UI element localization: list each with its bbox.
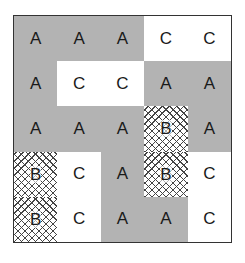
cell-label: A	[117, 164, 128, 184]
cell-label: C	[116, 74, 128, 94]
cell-label: B	[160, 120, 171, 137]
cell-label: A	[160, 209, 171, 229]
cell-label: B	[30, 166, 41, 183]
cell-label: C	[73, 74, 85, 94]
cell-label: A	[73, 29, 84, 49]
cell-r1-c2: A	[57, 16, 100, 61]
cell-r4-c2: C	[57, 152, 100, 197]
cell-label: C	[160, 29, 172, 49]
cell-r1-c1: A	[14, 16, 57, 61]
cell-r3-c1: A	[14, 106, 57, 151]
cell-r3-c3: A	[101, 106, 144, 151]
cell-label: A	[204, 74, 215, 94]
cell-r5-c5: C	[188, 197, 231, 242]
cell-r1-c3: A	[101, 16, 144, 61]
cell-label: A	[117, 119, 128, 139]
cell-r5-c4: A	[144, 197, 187, 242]
cell-r5-c3: A	[101, 197, 144, 242]
cell-r4-c1: B	[14, 152, 57, 197]
cell-label: A	[204, 119, 215, 139]
cell-label: A	[73, 119, 84, 139]
cell-label: A	[30, 119, 41, 139]
cell-label: A	[160, 74, 171, 94]
cell-r5-c2: C	[57, 197, 100, 242]
cell-r2-c1: A	[14, 61, 57, 106]
cell-r4-c4: B	[144, 152, 187, 197]
cell-label: C	[203, 29, 215, 49]
cell-r4-c3: A	[101, 152, 144, 197]
cell-r2-c4: A	[144, 61, 187, 106]
cell-r5-c1: B	[14, 197, 57, 242]
cell-r2-c2: C	[57, 61, 100, 106]
cell-label: C	[73, 209, 85, 229]
cell-label: C	[203, 209, 215, 229]
cell-label: B	[30, 211, 41, 228]
cell-r2-c3: C	[101, 61, 144, 106]
cell-r1-c5: C	[188, 16, 231, 61]
cell-label: B	[160, 166, 171, 183]
cell-r3-c5: A	[188, 106, 231, 151]
cell-label: A	[30, 29, 41, 49]
cell-label: A	[117, 209, 128, 229]
cell-r1-c4: C	[144, 16, 187, 61]
cell-label: A	[117, 29, 128, 49]
cell-r4-c5: C	[188, 152, 231, 197]
cell-label: A	[30, 74, 41, 94]
letter-grid: A A A C C A C C A A A A A B A B C A B C …	[13, 15, 232, 243]
cell-r3-c4: B	[144, 106, 187, 151]
cell-r2-c5: A	[188, 61, 231, 106]
cell-r3-c2: A	[57, 106, 100, 151]
cell-label: C	[73, 164, 85, 184]
cell-label: C	[203, 164, 215, 184]
